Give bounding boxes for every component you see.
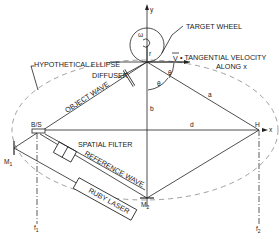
label-theta-2: θ — [157, 80, 161, 87]
line-m2-h — [147, 130, 259, 198]
label-reference-wave: REFERENCE WAVE — [83, 149, 146, 189]
label-h: H — [255, 121, 260, 128]
label-object-wave: OBJECT WAVE — [63, 79, 110, 114]
ellipse-leader — [31, 66, 38, 90]
label-f2: f2 — [256, 225, 261, 234]
label-y: y — [150, 6, 154, 14]
label-ruby-laser: RUBY LASER — [87, 186, 131, 216]
label-f1: f1 — [34, 224, 39, 233]
label-target-wheel: TARGET WHEEL — [186, 22, 242, 31]
label-theta-1: θ — [168, 69, 172, 76]
label-m2: M2 — [141, 201, 150, 210]
label-along-x: ALONG x — [216, 62, 247, 71]
label-x: x — [269, 126, 273, 133]
label-hypothetical-ellipse: HYPOTHETICAL ELLIPSE — [34, 60, 120, 69]
x-arrow-icon — [262, 128, 268, 132]
target-wheel-leader — [162, 26, 183, 53]
label-m1: M1 — [4, 158, 13, 167]
label-spatial-filter: SPATIAL FILTER — [78, 140, 132, 149]
label-diffuser: DIFFUSER — [92, 71, 128, 80]
y-arrow-icon — [145, 4, 149, 10]
label-d: d — [190, 121, 194, 128]
beam-splitter — [32, 129, 45, 133]
rotation-arrow-icon — [143, 39, 150, 47]
holography-setup-diagram: TARGET WHEEL HYPOTHETICAL ELLIPSE DIFFUS… — [0, 0, 279, 239]
label-b: b — [150, 105, 154, 112]
label-bs: B/S — [31, 121, 42, 128]
label-omega: ω — [138, 31, 143, 38]
label-tangential-velocity: • TANGENTIAL VELOCITY — [180, 53, 266, 62]
label-r: r — [149, 50, 152, 57]
label-a: a — [208, 91, 212, 98]
label-v: V — [173, 54, 178, 63]
line-a — [147, 62, 259, 130]
line-bs-m1 — [14, 133, 37, 148]
